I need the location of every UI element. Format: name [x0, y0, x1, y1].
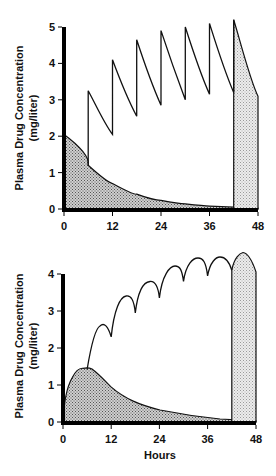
top-xtick-12: 12 — [106, 220, 118, 232]
top-y-axis-title: Plasma Drug Concentration — [13, 45, 25, 190]
top-multiple-dose-line — [88, 20, 234, 166]
bottom-single-dose-area — [63, 368, 256, 422]
bottom-y-axis — [61, 274, 65, 424]
bottom-ytick-0: 0 — [48, 416, 54, 428]
bottom-ytick-2: 2 — [48, 342, 54, 354]
bottom-xtick-24: 24 — [153, 433, 166, 445]
top-xtick-0: 0 — [61, 220, 67, 232]
bottom-xtick-36: 36 — [201, 433, 213, 445]
bottom-xtick-48: 48 — [250, 433, 262, 445]
bottom-ytick-4: 4 — [48, 268, 55, 280]
bottom-x-axis — [61, 421, 256, 425]
top-xtick-36: 36 — [203, 220, 215, 232]
bottom-steady-state-area — [232, 253, 256, 423]
bottom-y-axis-title: Plasma Drug Concentration — [13, 273, 25, 418]
top-chart: 0 1 2 3 4 5 0 12 24 36 48 Plasma Drug Co… — [13, 20, 264, 232]
top-x-axis — [62, 208, 258, 212]
top-ytick-5: 5 — [49, 21, 55, 33]
bottom-y-axis-units: (mg/liter) — [27, 322, 39, 369]
top-ytick-4: 4 — [49, 57, 56, 69]
bottom-ytick-1: 1 — [48, 379, 54, 391]
top-y-axis-units: (mg/liter) — [27, 94, 39, 141]
top-ytick-1: 1 — [49, 167, 55, 179]
top-steady-state-area — [234, 20, 258, 209]
top-xtick-48: 48 — [252, 220, 264, 232]
top-ytick-2: 2 — [49, 130, 55, 142]
bottom-x-axis-title: Hours — [144, 449, 176, 461]
top-single-dose-area — [64, 134, 258, 209]
top-ytick-3: 3 — [49, 94, 55, 106]
top-ytick-0: 0 — [49, 203, 55, 215]
top-y-axis — [62, 27, 66, 211]
bottom-xtick-12: 12 — [105, 433, 117, 445]
bottom-chart: 0 1 2 3 4 0 12 24 36 48 Hours Plasma Dru… — [13, 253, 262, 462]
bottom-multiple-dose-line — [87, 257, 232, 370]
bottom-ytick-3: 3 — [48, 305, 54, 317]
chart-canvas: 0 1 2 3 4 5 0 12 24 36 48 Plasma Drug Co… — [0, 0, 276, 476]
top-xtick-24: 24 — [155, 220, 168, 232]
bottom-xtick-0: 0 — [60, 433, 66, 445]
